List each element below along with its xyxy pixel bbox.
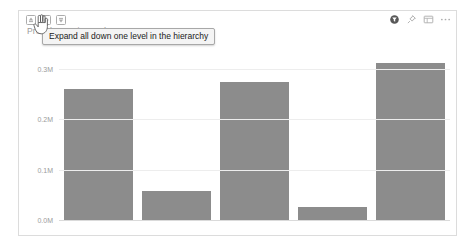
bar-column[interactable]: [59, 45, 137, 220]
x-axis: NYNJNCFLCT: [99, 240, 442, 247]
bars-layer: [59, 45, 450, 237]
bar[interactable]: [220, 82, 289, 220]
bar-column[interactable]: [137, 45, 215, 220]
filter-icon[interactable]: [389, 14, 400, 25]
focus-mode-icon[interactable]: [423, 14, 434, 25]
y-axis-tick-label: 0.0M: [37, 217, 53, 224]
drill-toolbar: [25, 14, 67, 26]
y-axis-tick-label: 0.1M: [37, 166, 53, 173]
gridline: [59, 170, 450, 171]
gridline: [59, 69, 450, 70]
axis-baseline: [59, 220, 450, 221]
bar-column[interactable]: [372, 45, 450, 220]
y-axis-tick-label: 0.2M: [37, 116, 53, 123]
bar[interactable]: [64, 89, 133, 220]
bar-column[interactable]: [215, 45, 293, 220]
bar[interactable]: [298, 207, 367, 220]
grid-area: NYNJNCFLCT: [59, 45, 450, 237]
chart-plot-area: 0.0M0.1M0.2M0.3M NYNJNCFLCT: [19, 45, 458, 237]
y-axis: 0.0M0.1M0.2M0.3M: [19, 45, 59, 237]
y-axis-tick-label: 0.3M: [37, 66, 53, 73]
pin-icon[interactable]: [406, 14, 417, 25]
tooltip: Expand all down one level in the hierarc…: [42, 28, 215, 45]
screenshot-root: Profit by Region and State: [0, 0, 473, 247]
gridline: [59, 119, 450, 120]
bar[interactable]: [376, 63, 445, 220]
expand-all-down-icon[interactable]: [55, 14, 67, 26]
more-options-icon[interactable]: [440, 14, 451, 25]
visual-header-actions: [389, 14, 451, 25]
bar-column[interactable]: [294, 45, 372, 220]
bar[interactable]: [142, 191, 211, 220]
drill-up-icon[interactable]: [25, 14, 37, 26]
drill-down-toggle-icon[interactable]: [40, 14, 52, 26]
